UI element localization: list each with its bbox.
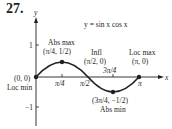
origin-point bbox=[34, 75, 38, 79]
abs-min-point bbox=[111, 90, 115, 94]
x-tick-label-pi2: π/2 bbox=[80, 79, 90, 88]
x-axis-arrow-icon bbox=[158, 75, 164, 79]
abs-max-coord: (π/4, 1/2) bbox=[43, 47, 71, 56]
y-axis-label: y bbox=[33, 8, 38, 17]
x-tick-label-pi4: π/4 bbox=[55, 79, 65, 88]
abs-max-label: Abs max bbox=[48, 38, 75, 47]
loc-max-label: Loc max bbox=[129, 48, 156, 57]
abs-min-label: Abs min bbox=[100, 105, 126, 114]
loc-max-coord: (π, 0) bbox=[132, 57, 149, 66]
equation-label: y = sin x cos x bbox=[84, 20, 128, 29]
abs-min-coord: (3π/4, −1/2) bbox=[92, 96, 128, 105]
abs-max-point bbox=[60, 60, 64, 64]
graph: y x 1 −1 π/4 π/2 3π/4 π y = sin x cos x … bbox=[0, 0, 172, 129]
inflection-label: Infl bbox=[91, 48, 102, 57]
x-axis-label: x bbox=[164, 73, 169, 82]
y-tick-label-1: 1 bbox=[29, 41, 33, 50]
x-tick-label-3pi4: 3π/4 bbox=[102, 66, 117, 75]
y-axis-arrow-icon bbox=[34, 17, 38, 23]
x-tick-label-pi: π bbox=[138, 79, 142, 88]
inflection-coord: (π/2, 0) bbox=[84, 57, 107, 66]
loc-max-point bbox=[137, 75, 141, 79]
y-tick-label-neg1: −1 bbox=[25, 103, 33, 112]
origin-coord: (0, 0) bbox=[14, 74, 31, 83]
origin-label: Loc min bbox=[7, 83, 32, 92]
